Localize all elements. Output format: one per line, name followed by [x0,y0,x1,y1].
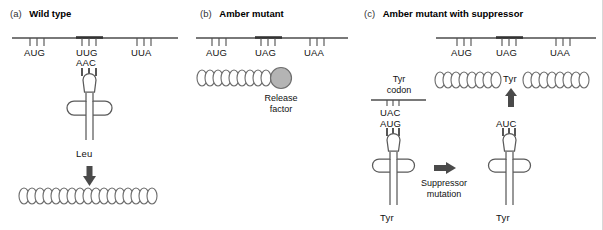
amino-acid-label-tyr-c-right: Tyr [496,212,510,223]
codon-label-uaa-c: UAA [550,47,570,58]
tyr-codon-caption-line2: codon [387,85,412,95]
polypeptide-chain-c-right [523,72,589,88]
codon-label-aug-c: AUG [451,47,472,58]
codon-label-uac-c: UAC [380,107,401,118]
suppressor-mutation-caption: Suppressor mutation [404,178,484,200]
tyr-codon-ticks [387,100,399,106]
polypeptide-chain-c-left [435,72,501,88]
figure-translation-suppression: (a) Wild type [0,0,603,230]
codon-label-uag-c: UAG [496,47,517,58]
anticodon-label-aug-c-left: AUG [380,118,401,129]
up-arrow-insertion-c [505,88,517,107]
suppressor-mutation-line2: mutation [427,189,462,199]
tyr-codon-caption-line1: Tyr [393,74,406,84]
codon-ticks-uag-c [502,38,516,46]
tyr-codon-caption: Tyr codon [372,74,426,96]
panel-c-graphics [0,0,603,230]
suppressor-mutation-line1: Suppressor [421,178,467,188]
trna-cloverleaf-c-right [489,134,531,206]
codon-ticks-uaa-c [556,38,570,46]
amino-acid-label-tyr-c-left: Tyr [380,212,394,223]
anticodon-label-auc-c-right: AUC [496,118,517,129]
codon-ticks-aug-c [457,38,471,46]
inserted-residue-label-tyr-c: Tyr [503,73,517,84]
right-arrow-mutation-c [434,162,456,174]
